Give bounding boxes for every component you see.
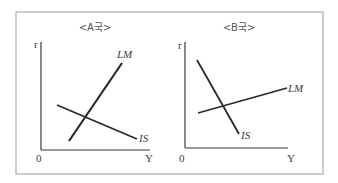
panel-a-is-label: IS <box>138 132 149 144</box>
panel-a: <A국> r 0 Y LM IS <box>34 22 153 164</box>
panel-a-x-axis-label: Y <box>145 152 153 164</box>
panel-b-is-curve <box>197 60 239 134</box>
panel-b-lm-label: LM <box>287 82 304 94</box>
panel-a-y-axis-label: r <box>34 38 38 50</box>
panel-a-origin-label: 0 <box>36 152 42 164</box>
is-lm-diagram: <A국> r 0 Y LM IS <B국> r 0 Y IS LM <box>0 0 338 183</box>
panel-b-y-axis-label: r <box>178 39 182 51</box>
panel-b-origin-label: 0 <box>179 152 185 164</box>
panel-a-title: <A국> <box>79 22 112 33</box>
panel-b-lm-curve <box>198 88 287 113</box>
panel-b: <B국> r 0 Y IS LM <box>178 22 304 164</box>
panel-b-title: <B국> <box>223 22 256 33</box>
panel-b-x-axis-label: Y <box>287 152 295 164</box>
panel-b-is-label: IS <box>240 129 251 141</box>
panel-a-lm-label: LM <box>116 48 133 60</box>
panel-a-is-curve <box>57 105 137 139</box>
